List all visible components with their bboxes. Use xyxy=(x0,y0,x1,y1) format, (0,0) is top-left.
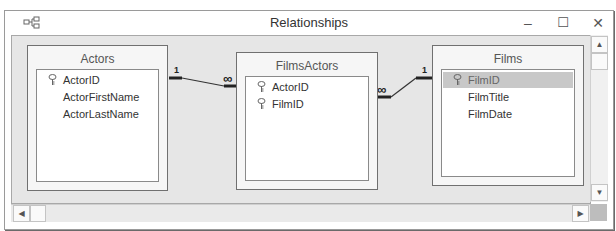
primary-key-icon xyxy=(453,74,462,86)
field-row[interactable]: FilmTitle xyxy=(443,89,573,105)
many-label: ∞ xyxy=(377,82,386,97)
field-list[interactable]: ActorID FilmID xyxy=(245,76,369,181)
title-bar[interactable]: Relationships – ☐ ✕ xyxy=(5,11,613,35)
field-name: ActorID xyxy=(272,81,309,93)
field-name: FilmTitle xyxy=(468,91,509,103)
primary-key-icon xyxy=(48,74,57,86)
table-title: Actors xyxy=(28,52,167,66)
one-label: 1 xyxy=(422,65,427,75)
field-row[interactable]: FilmDate xyxy=(443,106,573,122)
one-label: 1 xyxy=(174,65,179,75)
field-row[interactable]: ActorID xyxy=(247,79,367,95)
field-name: ActorFirstName xyxy=(63,91,139,103)
field-list[interactable]: ActorID ActorFirstName ActorLastName xyxy=(36,69,159,182)
scroll-left-button[interactable]: ◀ xyxy=(13,205,30,222)
field-name: ActorLastName xyxy=(63,108,139,120)
field-row[interactable]: ActorID xyxy=(38,72,157,88)
primary-key-icon xyxy=(257,98,266,110)
field-row[interactable]: ActorFirstName xyxy=(38,89,157,105)
scroll-up-button[interactable]: ▲ xyxy=(591,36,608,53)
close-button[interactable]: ✕ xyxy=(587,14,609,32)
scroll-thumb-horizontal[interactable] xyxy=(30,205,46,222)
field-row[interactable]: FilmID xyxy=(247,96,367,112)
relationships-window: Relationships – ☐ ✕ 1 ∞ 1 ∞ Actors xyxy=(4,10,614,230)
relationships-canvas[interactable]: 1 ∞ 1 ∞ Actors ActorID ActorFirstName Ac… xyxy=(11,35,591,204)
table-filmsactors[interactable]: FilmsActors ActorID FilmID xyxy=(236,52,378,190)
scroll-down-button[interactable]: ▼ xyxy=(591,184,608,201)
scroll-right-button[interactable]: ▶ xyxy=(572,205,589,222)
field-name: FilmID xyxy=(272,98,304,110)
field-name: ActorID xyxy=(63,74,100,86)
vertical-scrollbar[interactable]: ▲ ▼ xyxy=(590,35,608,202)
scroll-thumb-vertical[interactable] xyxy=(591,53,608,70)
field-row[interactable]: ActorLastName xyxy=(38,106,157,122)
maximize-button[interactable]: ☐ xyxy=(552,14,574,32)
field-list[interactable]: FilmID FilmTitle FilmDate xyxy=(441,69,575,177)
horizontal-scrollbar[interactable]: ◀ ▶ xyxy=(11,204,590,222)
primary-key-icon xyxy=(257,81,266,93)
scrollbar-corner xyxy=(590,204,607,221)
table-films[interactable]: Films FilmID FilmTitle FilmDate xyxy=(432,45,584,186)
many-label: ∞ xyxy=(223,71,232,86)
table-title: FilmsActors xyxy=(237,59,377,73)
field-row-selected[interactable]: FilmID xyxy=(443,72,573,88)
table-title: Films xyxy=(433,52,583,66)
field-name: FilmDate xyxy=(468,108,512,120)
table-actors[interactable]: Actors ActorID ActorFirstName ActorLastN… xyxy=(27,45,168,191)
field-name: FilmID xyxy=(468,74,500,86)
minimize-button[interactable]: – xyxy=(517,14,539,32)
